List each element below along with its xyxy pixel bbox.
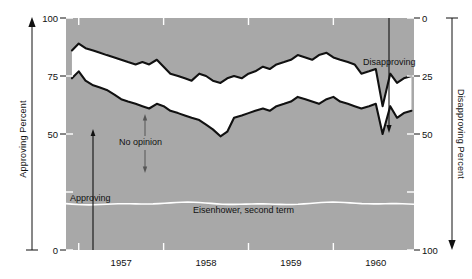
right-tick-label-0: 0 [422, 13, 427, 24]
x-tick-label-1958: 1958 [195, 257, 216, 268]
plot-area [66, 18, 414, 250]
approving-label: Approving [70, 193, 111, 203]
approval-rating-chart: Approving Percent Disapproving Percent 0… [0, 0, 472, 279]
right-tick-label-50: 50 [422, 129, 433, 140]
left-tick-label-0: 0 [53, 245, 58, 256]
right-tick-label-25: 25 [422, 71, 433, 82]
no-opinion-label: No opinion [119, 137, 162, 147]
left-axis-title: Approving Percent [18, 100, 28, 178]
plot-background [66, 18, 414, 250]
x-tick-label-1957: 1957 [111, 257, 132, 268]
left-tick-label-100: 100 [42, 13, 58, 24]
right-axis-title: Disapproving Percent [456, 89, 466, 179]
left-tick-label-50: 50 [47, 129, 58, 140]
series-caption: Eisenhower, second term [193, 205, 294, 215]
left-tick-label-75: 75 [47, 71, 58, 82]
right-tick-label-100: 100 [422, 245, 438, 256]
x-tick-label-1959: 1959 [280, 257, 301, 268]
x-tick-label-1960: 1960 [365, 257, 386, 268]
